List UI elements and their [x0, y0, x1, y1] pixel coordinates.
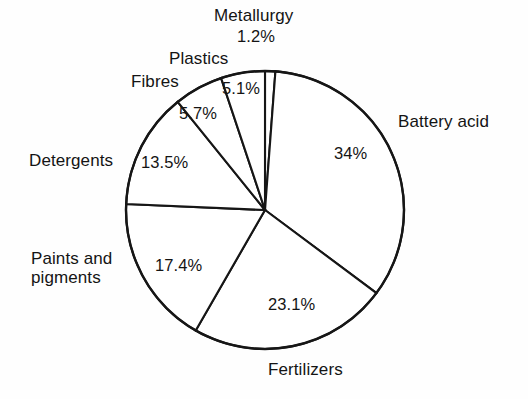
slice-label-paints-line1: Paints and	[31, 249, 112, 268]
slice-value-plastics: 5.1%	[222, 79, 260, 97]
slice-value-metallurgy: 1.2%	[237, 27, 275, 45]
slice-label-fertilizers: Fertilizers	[268, 360, 343, 379]
pie-chart: Metallurgy 1.2% Plastics 5.1% Fibres 5.7…	[0, 0, 528, 399]
slice-label-detergents: Detergents	[29, 151, 113, 170]
slice-label-fibres: Fibres	[131, 72, 179, 91]
slice-value-battery-acid: 34%	[334, 144, 367, 162]
slice-label-paints-line2: pigments	[31, 268, 101, 287]
slice-label-plastics: Plastics	[169, 49, 228, 68]
slice-value-paints-and-pigments: 17.4%	[155, 256, 202, 274]
slice-label-battery-acid: Battery acid	[398, 112, 489, 131]
pie-chart-graphic	[0, 0, 528, 399]
slice-value-fibres: 5.7%	[179, 104, 217, 122]
pie-slice-group	[126, 71, 404, 349]
slice-value-fertilizers: 23.1%	[268, 295, 315, 313]
slice-label-metallurgy: Metallurgy	[214, 6, 293, 25]
slice-value-detergents: 13.5%	[141, 153, 188, 171]
slice-label-paints-and-pigments: Paints andpigments	[31, 249, 112, 287]
